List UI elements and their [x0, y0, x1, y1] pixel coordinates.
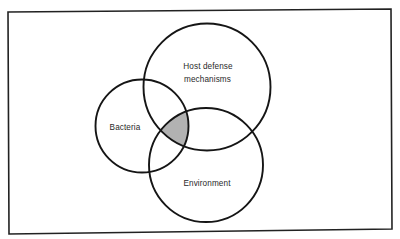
bacteria-label: Bacteria [110, 123, 141, 132]
host-defense-label-line1: Host defense [183, 62, 233, 71]
host-defense-label-line2: mechanisms [184, 75, 231, 84]
venn-diagram-figure: Host defense mechanisms Bacteria Environ… [0, 0, 400, 239]
venn-diagram: Host defense mechanisms Bacteria Environ… [0, 0, 400, 239]
environment-label: Environment [183, 179, 231, 188]
diagram-frame [8, 9, 392, 234]
